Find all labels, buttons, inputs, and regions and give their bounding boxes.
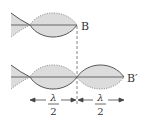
top-wave-end-label: B	[81, 20, 89, 33]
fraction-right-numerator: λ	[96, 92, 103, 103]
wave-figure: B B′ λ 2	[0, 0, 145, 124]
fraction-right: λ 2	[95, 92, 106, 117]
arrow-right-icon	[71, 98, 76, 102]
standing-wave-diagram: B B′ λ 2	[0, 0, 145, 124]
fraction-left-numerator: λ	[49, 92, 56, 103]
fraction-left-denominator: 2	[50, 106, 56, 117]
arrow-left-icon	[30, 98, 35, 102]
arrow-right-icon	[119, 98, 124, 102]
arrow-left-icon	[78, 98, 83, 102]
bottom-wave: B′	[11, 65, 138, 89]
fraction-left: λ 2	[48, 92, 59, 117]
bottom-wave-end-label: B′	[127, 72, 138, 85]
fraction-right-denominator: 2	[97, 106, 103, 117]
